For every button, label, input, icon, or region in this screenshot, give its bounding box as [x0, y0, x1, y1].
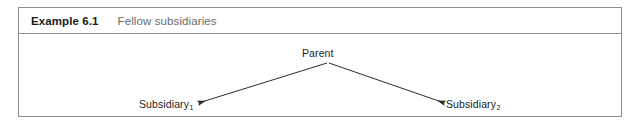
- example-header: Example 6.1 Fellow subsidiaries: [19, 8, 621, 34]
- node-label-subsidiary-1: Subsidiary1: [139, 98, 193, 110]
- example-number-label: Example 6.1: [31, 15, 99, 27]
- example-title: Fellow subsidiaries: [118, 15, 217, 27]
- diagram-area: Parent Subsidiary1 Subsidiary2: [19, 34, 621, 117]
- edge-parent-to-subsidiary-1: [198, 63, 327, 103]
- edge-parent-to-subsidiary-2: [329, 63, 445, 103]
- node-subsidiary-2-subscript: 2: [496, 104, 500, 111]
- node-subsidiary-2-text: Subsidiary: [446, 98, 496, 110]
- node-subsidiary-1-subscript: 1: [189, 104, 193, 111]
- example-box: Example 6.1 Fellow subsidiaries Parent S…: [18, 7, 622, 117]
- node-parent-text: Parent: [302, 47, 334, 59]
- node-subsidiary-1-text: Subsidiary: [139, 98, 189, 110]
- node-label-parent: Parent: [302, 47, 334, 59]
- node-label-subsidiary-2: Subsidiary2: [446, 98, 500, 110]
